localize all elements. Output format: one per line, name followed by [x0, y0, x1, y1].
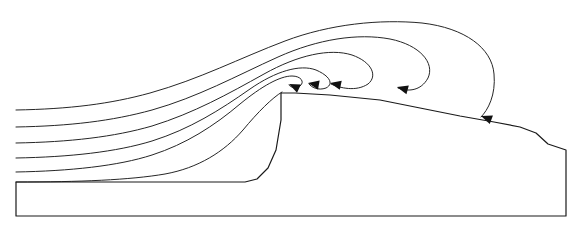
streamline-figure: [0, 0, 580, 232]
flow-diagram-canvas: [0, 0, 580, 232]
figure-background: [0, 0, 580, 232]
